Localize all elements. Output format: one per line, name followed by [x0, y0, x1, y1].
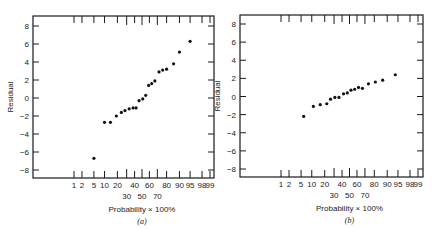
panel-b-normal-probability-plot: 86420−2−4−6−8Residual1251020406080909598…: [213, 15, 423, 225]
y-axis-label: Residual: [213, 80, 222, 111]
data-point: [302, 115, 305, 118]
x-tick-label-row2: 30: [330, 191, 339, 200]
y-tick-label: −6: [227, 147, 237, 156]
x-tick-label: 2: [80, 181, 85, 190]
x-tick-label: 1: [72, 181, 77, 190]
data-point: [144, 94, 147, 97]
data-point: [147, 84, 150, 87]
plot-frame: [33, 16, 214, 178]
data-point: [161, 69, 164, 72]
data-point: [141, 97, 144, 100]
data-point: [150, 82, 153, 85]
x-tick-label-row2: 50: [345, 191, 354, 200]
y-tick-label: 2: [25, 76, 30, 85]
y-axis-label: Residual: [6, 81, 15, 112]
y-tick-label: 8: [232, 20, 237, 29]
x-tick-label: 5: [92, 181, 97, 190]
x-axis-label: Probability × 100%: [316, 204, 383, 213]
data-point: [188, 40, 191, 43]
x-tick-label: 95: [393, 180, 402, 189]
y-tick-label: −8: [227, 165, 237, 174]
y-tick-label: 6: [25, 40, 30, 49]
data-point: [329, 98, 332, 101]
x-tick-label-row2: 70: [360, 191, 369, 200]
y-tick-label: −4: [227, 129, 237, 138]
x-tick-label: 1: [279, 180, 284, 189]
x-tick-label: 80: [162, 181, 171, 190]
x-tick-label-row2: 30: [122, 192, 131, 201]
y-tick-label: 2: [232, 74, 237, 83]
x-tick-label: 10: [307, 180, 316, 189]
y-tick-label: −4: [20, 130, 30, 139]
y-tick-label: −2: [20, 112, 30, 121]
data-point: [325, 102, 328, 105]
data-point: [337, 96, 340, 99]
y-tick-label: −6: [20, 148, 30, 157]
data-point: [381, 79, 384, 82]
data-point: [342, 92, 345, 95]
y-tick-label: 6: [232, 38, 237, 47]
y-tick-label: 0: [232, 93, 237, 102]
data-point: [346, 91, 349, 94]
data-point: [157, 70, 160, 73]
data-point: [103, 121, 106, 124]
x-tick-label: 5: [299, 180, 304, 189]
panel-a-normal-probability-plot: 86420−2−4−6−8Residual1251020406080909598…: [6, 16, 215, 226]
data-point: [153, 79, 156, 82]
data-point: [394, 73, 397, 76]
y-tick-label: −2: [227, 111, 237, 120]
x-tick-label: 90: [383, 180, 392, 189]
x-tick-label: 95: [186, 181, 195, 190]
data-point: [172, 62, 175, 65]
x-tick-label: 99: [414, 180, 423, 189]
x-tick-label-row2: 50: [138, 192, 147, 201]
x-tick-label: 2: [287, 180, 292, 189]
data-point: [367, 82, 370, 85]
x-tick-label: 40: [130, 181, 139, 190]
x-tick-label: 60: [145, 181, 154, 190]
y-tick-label: 0: [25, 94, 30, 103]
data-point: [357, 86, 360, 89]
y-tick-label: 8: [25, 22, 30, 31]
x-tick-label: 60: [353, 180, 362, 189]
x-tick-label: 90: [175, 181, 184, 190]
data-point: [319, 103, 322, 106]
data-point: [312, 105, 315, 108]
data-point: [134, 106, 137, 109]
data-point: [349, 89, 352, 92]
x-tick-label: 99: [206, 181, 215, 190]
y-tick-label: 4: [232, 56, 237, 65]
x-tick-label-row2: 70: [153, 192, 162, 201]
data-point: [178, 51, 181, 54]
y-tick-label: −8: [20, 166, 30, 175]
data-point: [109, 121, 112, 124]
panel-caption: (b): [345, 216, 355, 225]
x-tick-label: 20: [113, 181, 122, 190]
data-point: [120, 111, 123, 114]
data-point: [165, 68, 168, 71]
data-point: [123, 109, 126, 112]
x-tick-label: 40: [338, 180, 347, 189]
data-point: [361, 87, 364, 90]
x-tick-label: 10: [100, 181, 109, 190]
panel-caption: (a): [137, 217, 147, 226]
data-point: [115, 114, 118, 117]
data-point: [92, 157, 95, 160]
plot-frame: [240, 15, 423, 177]
data-point: [137, 99, 140, 102]
y-tick-label: 4: [25, 58, 30, 67]
x-axis-label: Probability × 100%: [109, 205, 176, 214]
residual-probability-plots: 86420−2−4−6−8Residual1251020406080909598…: [0, 0, 434, 229]
data-point: [131, 106, 134, 109]
data-point: [128, 107, 131, 110]
x-tick-label: 20: [320, 180, 329, 189]
data-point: [353, 88, 356, 91]
data-point: [374, 80, 377, 83]
x-tick-label: 80: [370, 180, 379, 189]
data-point: [333, 96, 336, 99]
